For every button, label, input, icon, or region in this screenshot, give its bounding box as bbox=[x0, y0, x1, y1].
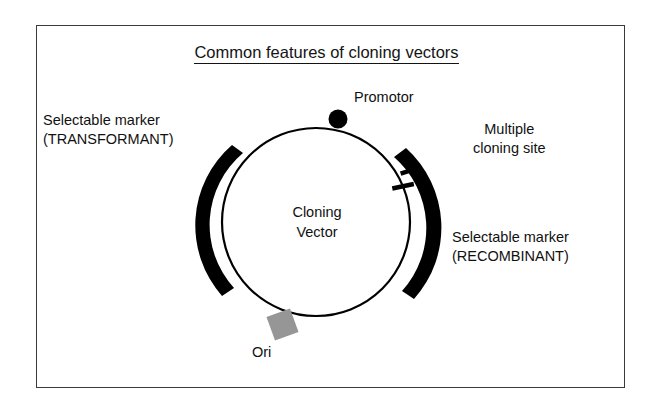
plasmid-diagram bbox=[0, 0, 653, 402]
label-cloning-vector: Cloning Vector bbox=[280, 202, 354, 242]
label-multiple-cloning-site: Multiple cloning site bbox=[473, 120, 546, 158]
label-selectable-marker-recombinant: Selectable marker (RECOMBINANT) bbox=[452, 228, 569, 266]
figure-canvas: Common features of cloning vectors Selec… bbox=[0, 0, 653, 402]
label-promotor: Promotor bbox=[354, 88, 414, 107]
gene-arc-recombinant bbox=[394, 148, 441, 299]
label-mcs-line2: cloning site bbox=[473, 139, 546, 158]
label-recombinant-line1: Selectable marker bbox=[452, 228, 569, 247]
label-transformant-line2: (TRANSFORMANT) bbox=[43, 130, 174, 149]
label-center-line1: Cloning bbox=[280, 202, 354, 222]
label-selectable-marker-transformant: Selectable marker (TRANSFORMANT) bbox=[43, 111, 174, 149]
label-transformant-line1: Selectable marker bbox=[43, 111, 174, 130]
label-recombinant-line2: (RECOMBINANT) bbox=[452, 247, 569, 266]
label-center-line2: Vector bbox=[280, 222, 354, 242]
label-mcs-line1: Multiple bbox=[473, 120, 546, 139]
promotor-dot-icon bbox=[329, 110, 348, 129]
label-ori: Ori bbox=[252, 343, 271, 362]
gene-arc-transformant bbox=[195, 145, 243, 296]
